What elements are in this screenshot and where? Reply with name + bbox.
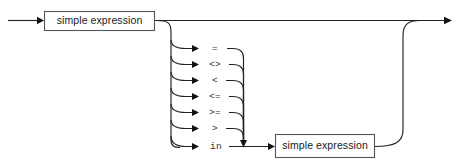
operator-label-ge[interactable]: >= <box>209 107 221 118</box>
branch-arrow-icon-eq <box>192 45 199 52</box>
operator-branch-arrowheads <box>192 45 199 150</box>
left-simple-expression-label: simple expression <box>57 14 143 26</box>
operator-label-lt[interactable]: < <box>212 75 218 86</box>
exit-arrow-icon <box>444 17 452 24</box>
entry-arrow-icon <box>37 17 44 24</box>
operator-merge-rail-eq <box>227 49 244 141</box>
right-rejoin-rail-group <box>375 21 444 147</box>
operator-branch-rail-gt <box>171 120 193 129</box>
operator-branch-rail-le <box>171 88 193 97</box>
right-simple-expression-node[interactable]: simple expression <box>276 135 375 158</box>
operator-merge-rail-ge <box>229 113 244 141</box>
branch-split-group <box>157 21 180 148</box>
railroad-diagram: simple expression <box>0 0 465 166</box>
right-simple-expression-label: simple expression <box>282 139 368 151</box>
operator-branch-rails <box>171 40 193 147</box>
branch-arrow-icon-lt <box>192 77 199 84</box>
operator-branch-rail-ge <box>171 104 193 113</box>
branch-arrow-icon-ge <box>192 109 199 116</box>
branch-split-curve <box>157 21 180 148</box>
operator-merge-rails <box>226 49 268 147</box>
merge-junction-group <box>240 140 275 150</box>
right-rejoin-rail <box>375 21 444 147</box>
operator-branch-rail-in <box>171 136 193 147</box>
branch-arrow-icon-in <box>192 143 199 150</box>
right-expression-entry-arrow-icon <box>268 143 275 150</box>
operator-label-eq[interactable]: = <box>212 43 218 54</box>
operator-branch-rail-eq <box>171 40 193 49</box>
operator-terminal-labels: = <> < <= >= > in <box>209 43 222 152</box>
branch-arrow-icon-gt <box>192 125 199 132</box>
entry-rail-group <box>8 17 44 24</box>
branch-arrow-icon-le <box>192 93 199 100</box>
operator-label-in[interactable]: in <box>210 141 222 152</box>
operator-branch-rail-lt <box>171 72 193 81</box>
left-simple-expression-node[interactable]: simple expression <box>45 12 155 31</box>
operator-merge-rail-gt <box>226 129 244 141</box>
operator-branch-rail-ne <box>171 56 193 65</box>
operator-label-gt[interactable]: > <box>212 123 218 134</box>
operator-label-le[interactable]: <= <box>209 91 221 102</box>
operator-merge-rail-le <box>229 97 244 141</box>
railroad-diagram-canvas: simple expression <box>0 0 465 166</box>
operator-label-ne[interactable]: <> <box>209 59 221 70</box>
branch-arrow-icon-ne <box>192 61 199 68</box>
